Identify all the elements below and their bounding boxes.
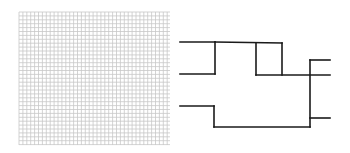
tree-branch <box>215 42 282 43</box>
tree-diagram <box>0 0 350 153</box>
